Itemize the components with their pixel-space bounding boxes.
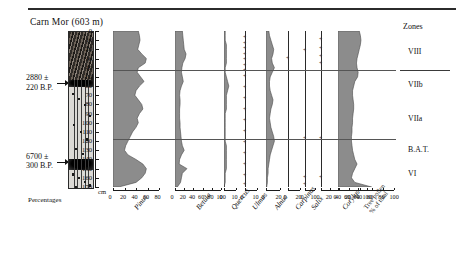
depth-tick-label: 90 — [76, 111, 92, 118]
x-axis-tick-label: 40 — [356, 194, 362, 200]
x-axis-tick — [300, 188, 301, 191]
curve-area — [224, 31, 236, 187]
x-axis-tick — [221, 188, 222, 191]
x-axis-tick — [338, 188, 339, 191]
x-axis-tick-label: 40 — [189, 194, 195, 200]
presence-mark: + — [286, 56, 289, 62]
depth-tick-label: 120 — [76, 138, 92, 145]
depth-tick — [95, 31, 99, 32]
depth-tick — [95, 49, 99, 50]
pollen-curve-tree-pollen-of-total — [338, 31, 394, 187]
date-line-2: 300 B.P. — [26, 161, 53, 170]
zone-label-viii: VIII — [408, 47, 421, 56]
presence-mark: + — [303, 175, 306, 181]
date-line-1: 6700 ± — [26, 152, 53, 161]
curve-area — [175, 31, 221, 187]
x-axis-tick — [125, 188, 126, 191]
depth-tick — [95, 150, 99, 151]
depth-tick-label: 10 — [76, 37, 92, 44]
x-axis-tick — [330, 188, 331, 191]
x-axis-tick-label: 0 — [334, 194, 337, 200]
x-axis-tick — [280, 188, 281, 191]
top-rule — [28, 8, 456, 10]
curve-area — [338, 31, 394, 187]
x-axis-tick — [203, 188, 204, 191]
zone-label-vi: VI — [408, 169, 416, 178]
zone-separator-rule — [400, 70, 450, 71]
percentages-label: Percentages — [28, 196, 61, 204]
presence-mark: + — [303, 48, 306, 54]
depth-tick — [95, 132, 99, 133]
depth-tick — [95, 40, 99, 41]
x-axis-tick — [184, 188, 185, 191]
x-axis-tick — [288, 188, 289, 191]
zone-label-viia: VIIa — [408, 114, 422, 123]
x-axis-tick — [148, 188, 149, 191]
curve-baseline — [305, 31, 306, 187]
x-axis-tick — [212, 188, 213, 191]
x-axis-tick — [136, 188, 137, 191]
presence-mark: + — [243, 151, 246, 157]
depth-axis — [95, 31, 96, 187]
x-axis-tick — [257, 188, 258, 191]
x-axis-tick — [193, 188, 194, 191]
x-axis — [266, 190, 280, 191]
date-line-1: 2880 ± — [26, 73, 53, 82]
x-axis-tick — [360, 188, 361, 191]
curve-area — [113, 31, 159, 187]
depth-tick — [95, 68, 99, 69]
depth-tick — [95, 59, 99, 60]
presence-mark: + — [319, 61, 322, 67]
zones-header: Zones — [403, 22, 423, 31]
presence-mark: + — [243, 173, 246, 179]
presence-mark: + — [243, 107, 246, 113]
x-axis-tick — [305, 188, 306, 191]
x-axis — [288, 190, 300, 191]
lithology-symbol — [72, 173, 74, 175]
depth-tick — [95, 178, 99, 179]
x-axis-tick — [266, 188, 267, 191]
depth-tick-label: 70 — [76, 92, 92, 99]
x-axis-tick — [321, 188, 322, 191]
depth-tick-label: 40 — [76, 65, 92, 72]
x-axis-tick — [236, 188, 237, 191]
depth-tick-label: 100 — [76, 120, 92, 127]
presence-mark: + — [243, 96, 246, 102]
depth-tick-label: 80 — [76, 101, 92, 108]
depth-tick — [95, 123, 99, 124]
x-axis-tick — [349, 188, 350, 191]
depth-tick — [95, 114, 99, 115]
zone-boundary-line — [113, 139, 396, 140]
zone-boundary-line — [113, 70, 396, 71]
depth-tick-label: 60 — [76, 83, 92, 90]
x-axis — [245, 190, 257, 191]
x-axis-tick — [245, 188, 246, 191]
x-axis-tick-label: 20 — [120, 194, 126, 200]
depth-tick — [95, 95, 99, 96]
date-line-2: 220 B.P. — [26, 83, 53, 92]
x-axis — [175, 190, 221, 191]
lithology-symbol — [73, 124, 75, 126]
presence-mark: + — [243, 140, 246, 146]
x-axis — [113, 190, 159, 191]
presence-mark: + — [319, 46, 322, 52]
zone-label-viib: VIIb — [408, 80, 423, 89]
curve-area — [266, 31, 280, 187]
radiocarbon-date-label: 2880 ±220 B.P. — [26, 73, 53, 91]
lithology-rule — [74, 80, 75, 188]
depth-tick-label: 110 — [76, 129, 92, 136]
taxon-label-alnus: Alnus — [272, 193, 289, 212]
depth-tick-label: 20 — [76, 46, 92, 53]
x-axis-tick-label: 20 — [345, 194, 351, 200]
pollen-curve-carpinus: + — [288, 31, 300, 187]
pollen-curve-ulmus: ++++++++++++++++++ — [245, 31, 257, 187]
radiocarbon-date-label: 6700 ±300 B.P. — [26, 152, 53, 170]
x-axis-tick-label: 0 — [220, 194, 223, 200]
depth-unit-label: cm — [98, 188, 106, 195]
depth-tick-label: 0 — [76, 28, 92, 35]
depth-tick-label: 140 — [76, 156, 92, 163]
presence-mark: + — [243, 118, 246, 124]
depth-tick-label: 150 — [76, 166, 92, 173]
zone-label-b-a-t-: B.A.T. — [408, 145, 429, 154]
depth-tick-label: 130 — [76, 147, 92, 154]
